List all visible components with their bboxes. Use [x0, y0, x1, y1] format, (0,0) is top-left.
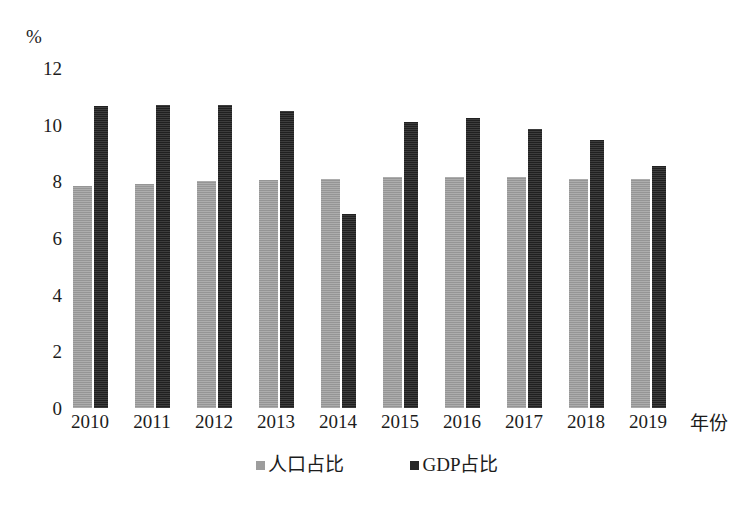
bar-population-share: [197, 181, 216, 408]
bar-gdp-share: [404, 122, 418, 408]
x-axis-tick-label: 2010: [71, 412, 109, 431]
bar-group: [310, 68, 372, 408]
bar-population-share: [135, 184, 154, 408]
bar-group: [372, 68, 434, 408]
bar-gdp-share: [466, 118, 480, 408]
bar-gdp-share: [94, 106, 108, 408]
x-axis: 2010201120122013201420152016201720182019: [62, 412, 682, 442]
y-axis-tick-label: 6: [16, 229, 62, 248]
x-axis-tick-label: 2012: [195, 412, 233, 431]
legend-label: GDP占比: [422, 455, 498, 474]
bar-population-share: [383, 177, 402, 408]
bar-gdp-share: [218, 105, 232, 408]
bar-group: [558, 68, 620, 408]
bar-group: [62, 68, 124, 408]
bar-population-share: [569, 179, 588, 409]
y-axis-tick-label: 0: [16, 399, 62, 418]
y-axis: 024681012: [8, 0, 62, 507]
legend-swatch-icon: [256, 461, 265, 470]
bar-group: [124, 68, 186, 408]
x-axis-tick-label: 2014: [319, 412, 357, 431]
x-axis-tick-label: 2016: [443, 412, 481, 431]
plot-area: [62, 68, 682, 408]
bar-group: [434, 68, 496, 408]
x-axis-tick-label: 2013: [257, 412, 295, 431]
x-axis-tick-label: 2018: [567, 412, 605, 431]
legend-label: 人口占比: [268, 455, 344, 474]
bar-gdp-share: [652, 166, 666, 408]
x-axis-tick-label: 2015: [381, 412, 419, 431]
bar-group: [620, 68, 682, 408]
bar-group: [186, 68, 248, 408]
x-axis-tick-label: 2011: [133, 412, 170, 431]
bar-population-share: [507, 177, 526, 408]
bar-population-share: [259, 180, 278, 408]
chart-legend: 人口占比GDP占比: [0, 455, 755, 474]
bar-population-share: [631, 179, 650, 409]
legend-item[interactable]: 人口占比: [256, 455, 344, 474]
bar-chart: % 024681012 2010201120122013201420152016…: [0, 0, 755, 507]
bar-gdp-share: [528, 129, 542, 408]
y-axis-tick-label: 4: [16, 285, 62, 304]
bar-gdp-share: [280, 111, 294, 409]
legend-swatch-icon: [410, 461, 419, 470]
legend-item[interactable]: GDP占比: [410, 455, 498, 474]
x-axis-title: 年份: [690, 414, 728, 433]
y-axis-tick-label: 2: [16, 342, 62, 361]
x-axis-tick-label: 2019: [629, 412, 667, 431]
y-axis-tick-label: 12: [16, 59, 62, 78]
y-axis-tick-label: 8: [16, 172, 62, 191]
bar-group: [496, 68, 558, 408]
y-axis-tick-label: 10: [16, 115, 62, 134]
bar-population-share: [321, 179, 340, 409]
bar-group: [248, 68, 310, 408]
x-axis-tick-label: 2017: [505, 412, 543, 431]
bar-population-share: [73, 186, 92, 408]
bar-population-share: [445, 177, 464, 408]
bar-gdp-share: [590, 140, 604, 408]
bar-gdp-share: [342, 214, 356, 408]
bar-gdp-share: [156, 105, 170, 408]
